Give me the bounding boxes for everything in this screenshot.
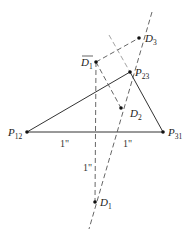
point-p31	[161, 130, 165, 134]
point-d1bar	[94, 60, 98, 64]
label-p23: P23	[134, 66, 149, 81]
kinematic-diagram: P12 P31 P23 D1 D3 D2 D1 1" 1" 1"	[0, 0, 192, 231]
dimension-label: 1"	[83, 162, 92, 173]
label-d1: D1	[99, 196, 112, 211]
point-p23	[128, 70, 132, 74]
dimension-label: 1"	[60, 138, 69, 149]
label-d3: D3	[144, 32, 157, 47]
link-p23-p31	[130, 72, 163, 132]
label-p31: P31	[167, 126, 182, 141]
point-d1	[93, 200, 97, 204]
dimension-label: 1"	[123, 138, 132, 149]
link-p12-p23	[27, 72, 130, 132]
label-p12: P12	[7, 126, 22, 141]
label-d2: D2	[129, 107, 142, 122]
dashed-line-d3-d1	[89, 12, 152, 229]
label-d1bar: D1	[80, 56, 93, 71]
dashed-line-d1bar-d2	[96, 62, 121, 108]
point-d2	[119, 106, 123, 110]
point-p12	[25, 130, 29, 134]
point-d3	[137, 36, 141, 40]
